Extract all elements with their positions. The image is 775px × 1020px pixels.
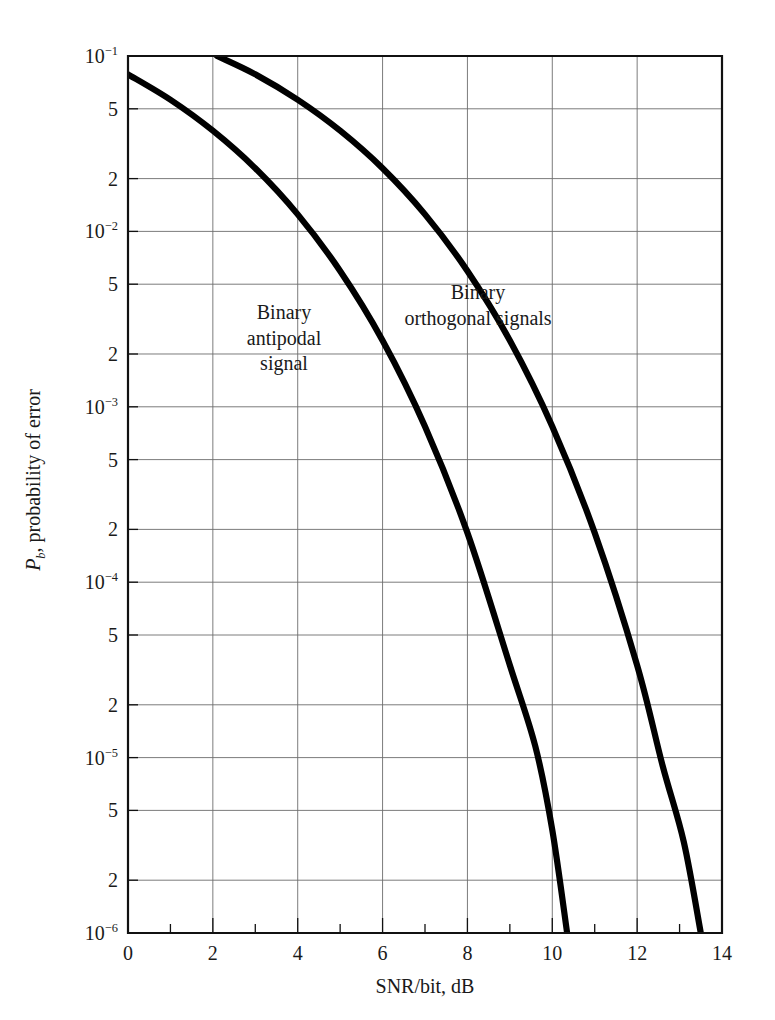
figure-container: 10−15210−25210−35210−45210−55210−6 02468… bbox=[0, 0, 775, 1020]
tick-marks-group bbox=[128, 56, 722, 933]
x-tick-label: 8 bbox=[462, 943, 472, 963]
binary-antipodal-label: Binaryantipodalsignal bbox=[247, 300, 321, 377]
y-tick-label: 2 bbox=[20, 870, 118, 890]
annotation-line: Binary bbox=[404, 280, 551, 306]
x-tick-label: 6 bbox=[378, 943, 388, 963]
y-tick-label: 10−6 bbox=[20, 923, 118, 943]
curve-series-1 bbox=[217, 56, 701, 933]
annotation-line: orthogonal signals bbox=[404, 306, 551, 332]
y-tick-label: 2 bbox=[20, 169, 118, 189]
y-axis-title: Pb, probability of error bbox=[22, 270, 45, 690]
y-tick-label: 2 bbox=[20, 695, 118, 715]
gridlines-group bbox=[128, 56, 722, 933]
x-tick-label: 10 bbox=[542, 943, 562, 963]
y-tick-label: 5 bbox=[20, 800, 118, 820]
chart-svg bbox=[0, 0, 775, 1020]
x-tick-label: 12 bbox=[627, 943, 647, 963]
data-curves-group bbox=[128, 56, 701, 933]
x-tick-label: 4 bbox=[293, 943, 303, 963]
x-tick-label: 0 bbox=[123, 943, 133, 963]
binary-orthogonal-label: Binaryorthogonal signals bbox=[404, 280, 551, 331]
y-tick-label: 10−1 bbox=[20, 46, 118, 66]
plot-frame bbox=[128, 56, 722, 933]
x-tick-label: 14 bbox=[712, 943, 732, 963]
curve-series-0 bbox=[128, 74, 567, 933]
y-tick-label: 10−5 bbox=[20, 748, 118, 768]
annotation-line: Binary bbox=[247, 300, 321, 326]
x-tick-label: 2 bbox=[208, 943, 218, 963]
annotation-line: antipodal bbox=[247, 326, 321, 352]
annotation-line: signal bbox=[247, 351, 321, 377]
y-tick-label: 10−2 bbox=[20, 221, 118, 241]
y-tick-label: 5 bbox=[20, 99, 118, 119]
x-axis-title: SNR/bit, dB bbox=[128, 975, 722, 998]
